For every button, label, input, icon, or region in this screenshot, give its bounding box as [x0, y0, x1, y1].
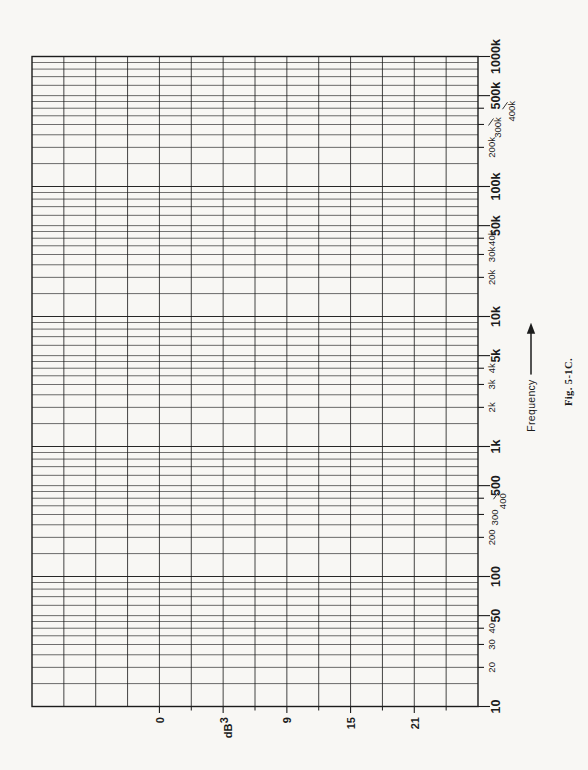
freq-tick-label: 50k — [489, 215, 503, 236]
freq-tick-label: 300k — [492, 117, 503, 138]
db-axis-title: dB — [222, 724, 234, 739]
freq-tick-label: 4k — [486, 363, 497, 373]
freq-tick-label: 20 — [486, 662, 497, 673]
freq-tick-label: 30 — [486, 639, 497, 650]
db-tick-label: 9 — [281, 717, 293, 723]
freq-tick-label: 200k — [486, 137, 497, 158]
freq-tick-label: 300 — [489, 510, 500, 526]
freq-tick-label: 400k — [506, 101, 517, 122]
freq-tick-label: 100k — [489, 173, 503, 201]
freq-tick-label: 100 — [489, 566, 503, 587]
freq-tick-label: 1k — [489, 440, 503, 454]
freq-tick-label: 10 — [489, 700, 503, 714]
freq-tick-label: 30k — [486, 247, 497, 263]
frequency-axis-title-text: Frequency — [525, 379, 537, 431]
freq-tick-label: 40 — [486, 623, 497, 634]
freq-tick-label: 3k — [486, 379, 497, 389]
freq-tick-label: 200 — [486, 529, 497, 545]
freq-tick-label: 1000k — [489, 39, 503, 74]
scanned-figure-page: 10203040501002003004005001k2k3k4k5k10k20… — [0, 0, 588, 770]
freq-tick-label: 500k — [489, 82, 503, 110]
db-tick-label: 3 — [218, 717, 230, 723]
grid-rule-lines — [32, 57, 478, 707]
freq-tick-label: 500 — [489, 475, 503, 496]
semilog-graph-paper: 10203040501002003004005001k2k3k4k5k10k20… — [0, 0, 588, 770]
freq-tick-label: 20k — [486, 269, 497, 285]
db-tick-label: 21 — [409, 717, 421, 729]
figure-caption: Fig. 5-1C. — [563, 358, 574, 406]
frequency-arrow-icon — [525, 320, 537, 374]
db-tick-label: 15 — [345, 717, 357, 729]
freq-tick-label: 50 — [489, 609, 503, 623]
freq-tick-label: 2k — [486, 402, 497, 412]
freq-tick-label: 5k — [489, 349, 503, 363]
frequency-axis-title: Frequency — [525, 320, 537, 431]
freq-tick-label: 10k — [489, 306, 503, 327]
db-tick-label: 0 — [154, 717, 166, 723]
